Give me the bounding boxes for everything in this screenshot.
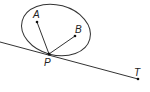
label-p: P	[44, 57, 51, 68]
label-a: A	[32, 9, 40, 20]
tangent-line	[0, 42, 138, 79]
circle	[16, 0, 97, 63]
point-p	[48, 53, 51, 56]
point-a	[36, 21, 39, 24]
point-b	[74, 35, 77, 38]
geometry-diagram: A B P T	[0, 0, 150, 92]
label-b: B	[75, 24, 82, 35]
segment-pb	[49, 36, 75, 54]
point-t	[137, 78, 140, 81]
segment-pa	[37, 22, 49, 54]
label-t: T	[134, 67, 141, 78]
